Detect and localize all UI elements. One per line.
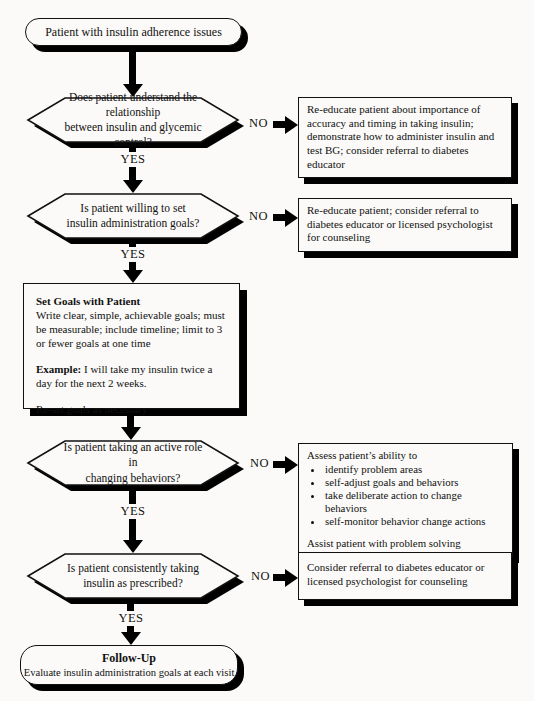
start-node: Patient with insulin adherence issues bbox=[25, 18, 242, 46]
arrow-right-no-2 bbox=[273, 208, 298, 227]
start-node-label: Patient with insulin adherence issues bbox=[45, 25, 222, 39]
followup-title: Follow-Up bbox=[102, 651, 156, 666]
yes-label-4: YES bbox=[115, 611, 146, 626]
followup-node: Follow-Up Evaluate insulin administratio… bbox=[20, 645, 238, 685]
yes-label-3: YES bbox=[117, 504, 148, 519]
set-goals-box: Set Goals with Patient Write clear, simp… bbox=[23, 283, 240, 409]
no-label-2: NO bbox=[249, 209, 268, 224]
action-box-consider-referral: Consider referral to diabetes educator o… bbox=[298, 552, 512, 600]
action-box-assess-ability: Assess patient’s ability to identify pro… bbox=[298, 443, 513, 557]
action-box-text: Re-educate patient about importance of a… bbox=[307, 103, 494, 170]
arrow-right-no-1 bbox=[273, 115, 298, 134]
yes-label-2: YES bbox=[117, 247, 148, 262]
action-box-reeducate-referral: Re-educate patient; consider referral to… bbox=[298, 198, 512, 252]
action-box-text: Re-educate patient; consider referral to… bbox=[307, 204, 493, 243]
arrow-head-icon bbox=[285, 209, 298, 227]
decision-label: Is patient willing to set insulin admini… bbox=[61, 193, 205, 239]
decision-label: Is patient taking an active role in chan… bbox=[61, 440, 205, 486]
arrow-stem bbox=[273, 214, 285, 221]
list-item: take deliberate action to change behavio… bbox=[324, 489, 504, 515]
decision-label: Does patient understand the relationship… bbox=[61, 97, 205, 143]
arrow-head-icon bbox=[285, 569, 298, 587]
action-box-intro: Assess patient’s ability to bbox=[307, 449, 417, 461]
arrow-down-d3-to-d4 bbox=[122, 486, 143, 553]
list-item: identify problem areas bbox=[324, 463, 504, 476]
ability-list: identify problem areas self-adjust goals… bbox=[307, 463, 504, 528]
decision-consistently-taking: Is patient consistently taking insulin a… bbox=[27, 553, 239, 599]
arrow-stem bbox=[273, 121, 285, 128]
arrow-head-icon bbox=[285, 456, 298, 474]
flowchart-canvas: Patient with insulin adherence issues Do… bbox=[0, 0, 534, 701]
arrow-right-no-4 bbox=[273, 568, 298, 587]
no-label-1: NO bbox=[249, 116, 268, 131]
arrow-stem bbox=[129, 44, 136, 84]
arrow-head-icon bbox=[121, 632, 141, 645]
arrow-head-icon bbox=[123, 540, 143, 553]
action-box-footer: Assist patient with problem solving bbox=[307, 537, 504, 550]
arrow-stem bbox=[273, 461, 285, 468]
no-label-3: NO bbox=[250, 456, 269, 471]
arrow-right-no-3 bbox=[273, 455, 298, 474]
decision-understand-relationship: Does patient understand the relationship… bbox=[27, 97, 239, 143]
arrow-head-icon bbox=[285, 116, 298, 134]
list-item: self-adjust goals and behaviors bbox=[324, 476, 504, 489]
set-goals-footer: Re-set goals as necessary bbox=[36, 403, 229, 417]
no-label-4: NO bbox=[251, 569, 270, 584]
example-label: Example: bbox=[36, 363, 81, 375]
arrow-head-icon bbox=[121, 427, 141, 440]
arrow-down-d1-to-d2 bbox=[122, 143, 143, 193]
decision-active-role: Is patient taking an active role in chan… bbox=[27, 440, 239, 486]
set-goals-body: Write clear, simple, achievable goals; m… bbox=[36, 309, 229, 351]
arrow-head-icon bbox=[123, 270, 143, 283]
decision-label: Is patient consistently taking insulin a… bbox=[61, 553, 205, 599]
action-box-reeducate-accuracy: Re-educate patient about importance of a… bbox=[298, 97, 512, 178]
yes-label-1: YES bbox=[117, 152, 148, 167]
arrow-stem bbox=[273, 574, 285, 581]
set-goals-title: Set Goals with Patient bbox=[36, 295, 229, 309]
list-item: self-monitor behavior change actions bbox=[324, 515, 504, 528]
set-goals-example: Example: I will take my insulin twice a … bbox=[36, 363, 229, 391]
followup-text: Evaluate insulin administration goals at… bbox=[24, 666, 235, 679]
arrow-head-icon bbox=[123, 180, 143, 193]
decision-willing-to-set-goals: Is patient willing to set insulin admini… bbox=[27, 193, 239, 239]
action-box-text: Consider referral to diabetes educator o… bbox=[307, 561, 484, 587]
